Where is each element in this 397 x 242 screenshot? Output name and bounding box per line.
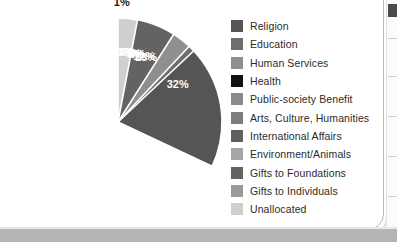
right-gutter-rail[interactable]: [386, 0, 397, 242]
legend-color-swatch: [231, 112, 243, 124]
screenshot-root: 32%13%12%8%7%4%8%3%9%1%3% ReligionEducat…: [0, 0, 397, 242]
legend-item[interactable]: Health: [231, 72, 381, 90]
right-rail-divider: [386, 0, 387, 242]
legend-item[interactable]: Gifts to Individuals: [231, 182, 381, 200]
legend-item-label: Gifts to Individuals: [250, 185, 338, 197]
pie-slice-value-label: 1%: [114, 0, 130, 8]
rail-marker-icon: [388, 4, 397, 17]
legend-color-swatch: [231, 167, 243, 179]
rail-tick: [388, 116, 397, 117]
rail-tick: [388, 76, 397, 77]
legend-item-label: Education: [250, 38, 298, 50]
legend-item-label: Human Services: [250, 57, 328, 69]
legend-item[interactable]: Religion: [231, 17, 381, 35]
legend-item[interactable]: Arts, Culture, Humanities: [231, 108, 381, 126]
legend-item[interactable]: Gifts to Foundations: [231, 163, 381, 181]
rail-tick: [388, 38, 397, 39]
legend-item[interactable]: International Affairs: [231, 127, 381, 145]
legend-item-label: Gifts to Foundations: [250, 167, 346, 179]
legend-item-label: Unallocated: [250, 203, 307, 215]
legend-color-swatch: [231, 75, 243, 87]
legend-color-swatch: [231, 38, 243, 50]
legend-item[interactable]: Education: [231, 35, 381, 53]
legend-item[interactable]: Environment/Animals: [231, 145, 381, 163]
legend-item-label: Environment/Animals: [250, 148, 351, 160]
legend-item-label: Religion: [250, 20, 289, 32]
legend-color-swatch: [231, 93, 243, 105]
legend-color-swatch: [231, 130, 243, 142]
legend-item-label: Arts, Culture, Humanities: [250, 112, 369, 124]
bottom-gray-band: [0, 229, 397, 242]
pie-chart: 32%13%12%8%7%4%8%3%9%1%3%: [0, 0, 240, 230]
pie-chart-svg: 32%13%12%8%7%4%8%3%9%1%3%: [0, 0, 240, 230]
pie-slice-value-label: 32%: [167, 78, 189, 90]
legend-item[interactable]: Unallocated: [231, 200, 381, 218]
legend-item[interactable]: Human Services: [231, 54, 381, 72]
legend-color-swatch: [231, 57, 243, 69]
rail-tick: [388, 196, 397, 197]
legend-item[interactable]: Public-society Benefit: [231, 90, 381, 108]
legend-item-label: Public-society Benefit: [250, 93, 353, 105]
legend-item-label: International Affairs: [250, 130, 342, 142]
pie-slice-group: [118, 18, 222, 166]
legend-color-swatch: [231, 203, 243, 215]
legend-color-swatch: [231, 20, 243, 32]
pie-slice-value-label: 3%: [117, 46, 133, 58]
legend-color-swatch: [231, 185, 243, 197]
legend-color-swatch: [231, 148, 243, 160]
legend-item-label: Health: [250, 75, 281, 87]
chart-legend: ReligionEducationHuman ServicesHealthPub…: [231, 17, 381, 218]
rail-tick: [388, 156, 397, 157]
